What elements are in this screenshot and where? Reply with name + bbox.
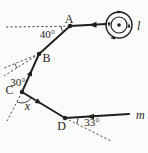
label-angle-30: 30° bbox=[10, 76, 25, 88]
geometry-figure: A B C D l m 40° 30° x 33° bbox=[0, 0, 148, 153]
angle-arc-B bbox=[15, 64, 17, 68]
label-point-A: A bbox=[65, 12, 74, 26]
label-angle-40: 40° bbox=[40, 28, 55, 40]
label-point-B: B bbox=[43, 51, 51, 65]
line-l-segment bbox=[70, 24, 106, 26]
label-line-l: l bbox=[137, 19, 141, 33]
point-C-dot bbox=[20, 90, 24, 94]
figure-canvas: A B C D l m 40° 30° x 33° bbox=[0, 0, 148, 153]
arrow-on-line-l bbox=[89, 22, 97, 28]
label-angle-x: x bbox=[24, 99, 31, 113]
coil-center-dot bbox=[117, 23, 121, 27]
coil-arrow-left bbox=[108, 23, 111, 28]
spiral-coil-icon bbox=[106, 11, 132, 40]
angle-arc-A bbox=[61, 26, 63, 32]
point-B-dot bbox=[37, 52, 41, 56]
label-point-D: D bbox=[57, 119, 66, 133]
label-line-m: m bbox=[136, 108, 145, 122]
coil-arrow-right bbox=[128, 23, 131, 28]
label-angle-33: 33° bbox=[84, 116, 99, 128]
coil-arrow-top bbox=[118, 11, 123, 14]
dashed-horizontal-at-A bbox=[6, 26, 68, 27]
